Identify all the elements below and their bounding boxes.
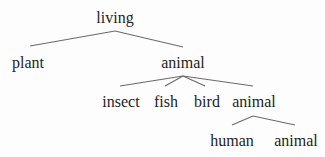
node-living: living bbox=[96, 10, 133, 26]
node-human: human bbox=[210, 133, 254, 149]
edge-animal-animal-leaf bbox=[253, 116, 295, 125]
node-bird: bird bbox=[194, 94, 220, 110]
edge-living-animal bbox=[115, 31, 183, 47]
edge-living-plant bbox=[30, 31, 115, 46]
node-animal-leaf: animal bbox=[274, 133, 318, 149]
tree-diagram: living plant animal insect fish bird ani… bbox=[0, 0, 325, 157]
node-fish: fish bbox=[154, 94, 178, 110]
node-animal-sub: animal bbox=[232, 94, 276, 110]
node-plant: plant bbox=[12, 55, 44, 71]
node-animal: animal bbox=[161, 55, 205, 71]
node-insect: insect bbox=[102, 94, 139, 110]
edge-animal-human bbox=[232, 116, 253, 125]
